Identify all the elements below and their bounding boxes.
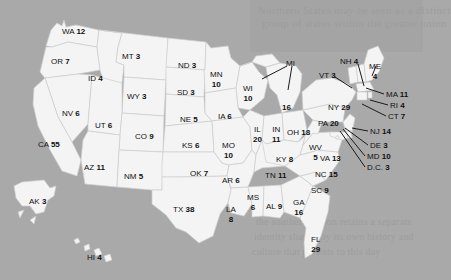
leader-line-RI <box>370 100 388 105</box>
state-shape-LA[interactable] <box>228 187 252 216</box>
state-shape-ME[interactable] <box>364 46 384 82</box>
state-shape-HI[interactable] <box>74 238 112 262</box>
state-shape-WI[interactable] <box>236 62 268 110</box>
state-shape-CT[interactable] <box>357 92 367 100</box>
state-shape-SD[interactable] <box>166 67 205 97</box>
state-shape-MN[interactable] <box>204 42 240 93</box>
leader-line-CT <box>362 104 386 116</box>
state-shapes <box>14 20 384 262</box>
state-shape-OR[interactable] <box>40 42 100 78</box>
state-shape-KS[interactable] <box>163 121 214 152</box>
state-shape-NJ[interactable] <box>343 114 355 132</box>
state-shape-AL[interactable] <box>263 185 284 218</box>
state-shape-CO[interactable] <box>119 113 164 152</box>
state-shape-AK[interactable] <box>14 180 56 224</box>
state-shape-MA[interactable] <box>356 82 374 92</box>
state-shape-MO[interactable] <box>212 117 252 165</box>
state-shape-UT[interactable] <box>88 75 122 135</box>
state-shape-IN[interactable] <box>262 113 284 144</box>
leader-line-NJ <box>352 128 368 131</box>
state-shape-ND[interactable] <box>166 38 206 70</box>
state-shape-WY[interactable] <box>122 77 166 116</box>
leader-line-DC <box>340 131 365 167</box>
state-shape-TX[interactable] <box>152 176 231 243</box>
state-shape-RI[interactable] <box>368 92 372 98</box>
state-shape-NM[interactable] <box>117 150 163 190</box>
state-shape-AZ[interactable] <box>81 131 120 187</box>
state-shape-DC[interactable] <box>336 136 339 139</box>
